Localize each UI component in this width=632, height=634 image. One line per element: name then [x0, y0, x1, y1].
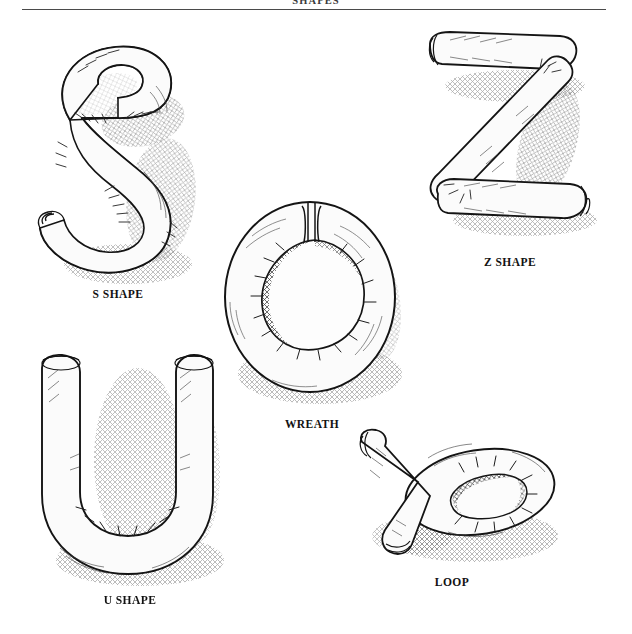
caption-loop: LOOP — [352, 576, 552, 588]
dough-s-shape-illustration — [18, 22, 223, 287]
caption-u-shape: U SHAPE — [30, 594, 230, 606]
dough-loop-illustration — [352, 424, 562, 574]
running-head: SHAPES — [0, 0, 632, 4]
dough-u-shape-illustration — [30, 342, 230, 592]
figure-loop — [352, 424, 562, 574]
figure-u-shape — [30, 342, 230, 592]
figure-wreath — [222, 192, 407, 414]
dough-z-shape-illustration — [420, 24, 610, 254]
caption-z-shape: Z SHAPE — [420, 256, 600, 268]
figure-s-shape — [18, 22, 223, 287]
dough-wreath-illustration — [222, 192, 407, 414]
figure-z-shape — [420, 24, 610, 254]
header-rule — [22, 9, 606, 10]
caption-s-shape: S SHAPE — [18, 288, 218, 300]
